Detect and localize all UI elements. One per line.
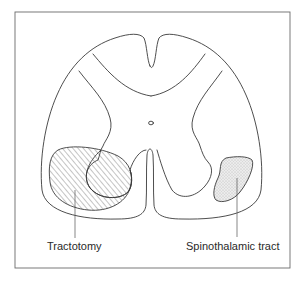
figure-frame — [15, 12, 290, 268]
gray-matter-right — [157, 71, 222, 196]
tractotomy-label: Tractotomy — [47, 241, 102, 252]
spinothalamic-tract — [214, 157, 253, 202]
spinothalamic-tract-label: Spinothalamic tract — [186, 241, 280, 252]
dorsal-gray-left — [93, 54, 151, 96]
dorsal-gray-right — [151, 54, 205, 96]
tractotomy-lesion — [49, 147, 131, 210]
central-canal — [149, 121, 154, 125]
